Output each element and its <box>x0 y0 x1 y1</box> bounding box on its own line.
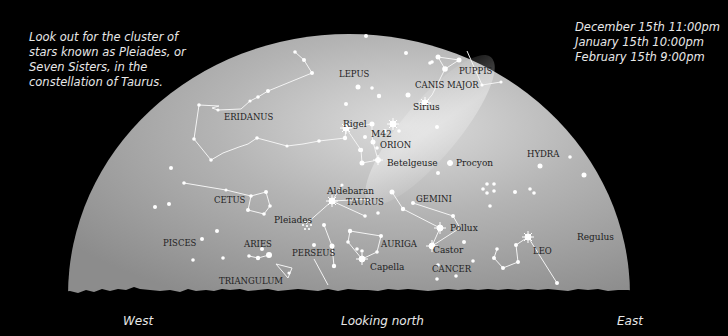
constellation-label-triangulum: TRIANGULUM <box>219 276 283 286</box>
star-label-rigel: Rigel <box>343 119 367 129</box>
constellation-label-perseus: PERSEUS <box>292 248 336 258</box>
constellation-label-canis-major: CANIS MAJOR <box>415 80 479 90</box>
constellation-label-auriga: AURIGA <box>380 239 418 249</box>
direction-looking-north: Looking north <box>341 314 424 328</box>
constellation-label-eridanus: ERIDANUS <box>224 112 274 122</box>
direction-west: West <box>123 314 153 328</box>
star-label-aldebaran: Aldebaran <box>326 186 374 196</box>
star-label-sirius: Sirius <box>413 102 440 112</box>
star-label-procyon: Procyon <box>456 158 493 168</box>
star-label-castor: Castor <box>433 245 464 255</box>
procyon-star-icon <box>448 161 453 166</box>
constellation-label-puppis: PUPPIS <box>459 66 493 76</box>
viewing-times-note: December 15th 11:00pm January 15th 10:00… <box>575 20 725 65</box>
star-label-m42: M42 <box>371 129 392 139</box>
constellation-label-pisces: PISCES <box>163 238 197 248</box>
star-label-betelgeuse: Betelgeuse <box>387 158 438 168</box>
constellation-label-cancer: CANCER <box>432 264 472 274</box>
constellation-label-hydra: HYDRA <box>527 149 560 159</box>
pleiades-tip-note: Look out for the cluster of stars known … <box>29 30 199 90</box>
horizon-silhouette <box>60 287 636 336</box>
constellation-label-lepus: LEPUS <box>339 69 370 79</box>
star-label-pleiades: Pleiades <box>274 215 313 225</box>
direction-east: East <box>617 314 643 328</box>
constellation-label-orion: ORION <box>380 140 412 150</box>
constellation-label-leo: LEO <box>533 246 552 256</box>
constellation-label-gemini: GEMINI <box>416 194 452 204</box>
constellation-label-cetus: CETUS <box>214 195 246 205</box>
constellation-label-taurus: TAURUS <box>346 197 384 207</box>
star-label-pollux: Pollux <box>450 223 478 233</box>
constellation-label-aries: ARIES <box>243 239 272 249</box>
star-label-regulus: Regulus <box>577 232 614 242</box>
star-label-capella: Capella <box>370 262 405 272</box>
